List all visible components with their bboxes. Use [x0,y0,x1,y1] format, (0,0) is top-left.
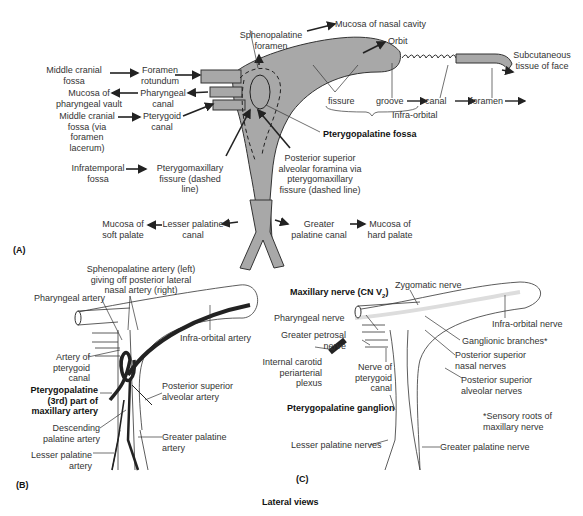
label-middle-cranial-fossa-lacerum: Middle cranial fossa (via foramen laceru… [52,111,122,153]
label-canal: canal [425,96,447,107]
label-nerve-pterygoid-canal: Nerve of pterygoid canal [348,362,392,394]
label-sphenopalatine-foramen: Sphenopalatine foramen [236,30,306,51]
label-orbit: Orbit [388,36,408,47]
label-artery-pterygoid-canal: Artery of pterygoid canal [30,352,90,384]
label-mucosa-pharyngeal-vault: Mucosa of pharyngeal vault [54,88,124,109]
label-foramen: foramen [470,96,503,107]
label-greater-petrosal-nerve: Greater petrosal nerve [280,330,346,351]
label-pterygopalatine-part: Pterygopalatine (3rd) part of maxillary … [20,385,98,417]
label-sphenopalatine-artery: Sphenopalatine artery (left) giving off … [86,264,196,296]
label-groove: groove [376,96,404,107]
label-sensory-roots: *Sensory roots of maxillary nerve [483,411,563,432]
label-infra-orbital-artery: Infra-orbital artery [180,333,251,344]
label-posterior-superior-alveolar-nerves: Posterior superior alveolar nerves [461,375,541,396]
figure-caption: Lateral views [262,497,319,507]
panel-label-a: (A) [13,245,26,255]
label-internal-carotid-plexus: Internal carotid periarterial plexus [262,357,322,389]
label-posterior-superior-alveolar-foramina: Posterior superior alveolar foramina via… [278,153,362,195]
label-pterygopalatine-ganglion: Pterygopalatine ganglion [287,403,395,414]
label-posterior-superior-alveolar-artery: Posterior superior alveolar artery [162,381,238,402]
panel-label-c: (C) [296,474,309,484]
label-lesser-palatine-nerves: Lesser palatine nerves [291,440,382,451]
label-pterygomaxillary-fissure: Pterygomaxillary fissure (dashed line) [150,163,230,195]
label-pterygopalatine-fossa: Pterygopalatine fossa [323,129,417,140]
label-subcutaneous-tissue: Subcutaneous tissue of face [510,50,574,71]
label-mucosa-soft-palate: Mucosa of soft palate [100,219,146,240]
label-zygomatic-nerve: Zygomatic nerve [395,280,462,291]
label-greater-palatine-nerve: Greater palatine nerve [440,442,530,453]
label-lesser-palatine-artery: Lesser palatine artery [30,450,92,471]
label-fissure: fissure [328,96,355,107]
label-posterior-superior-nasal-nerves: Posterior superior nasal nerves [455,350,535,371]
label-maxillary-nerve: Maxillary nerve (CN V2) [290,287,388,301]
label-pharyngeal-canal: Pharyngeal canal [140,88,186,109]
label-mucosa-nasal-cavity: Mucosa of nasal cavity [335,19,426,30]
maxillary-nerve-close: ) [385,287,388,297]
label-pterygoid-canal: Pterygoid canal [140,111,184,132]
label-descending-palatine-artery: Descending palatine artery [40,423,100,444]
maxillary-nerve-text: Maxillary nerve (CN V [290,287,382,297]
label-infra-orbital-nerve: Infra-orbital nerve [492,319,563,330]
label-middle-cranial-fossa: Middle cranial fossa [36,65,112,86]
label-pharyngeal-artery: Pharyngeal artery [34,293,105,304]
label-lesser-palatine-canal: Lesser palatine canal [160,219,226,240]
label-mucosa-hard-palate: Mucosa of hard palate [366,219,414,240]
label-ganglionic-branches: Ganglionic branches* [462,336,548,347]
panel-label-b: (B) [16,480,29,490]
label-pharyngeal-nerve: Pharyngeal nerve [274,313,345,324]
label-infratemporal-fossa: Infratemporal fossa [70,163,126,184]
label-greater-palatine-artery: Greater palatine artery [162,432,228,453]
label-greater-palatine-canal: Greater palatine canal [288,219,350,240]
label-foramen-rotundum: Foramen rotundum [140,65,180,86]
label-infra-orbital: Infra-orbital [392,110,438,121]
